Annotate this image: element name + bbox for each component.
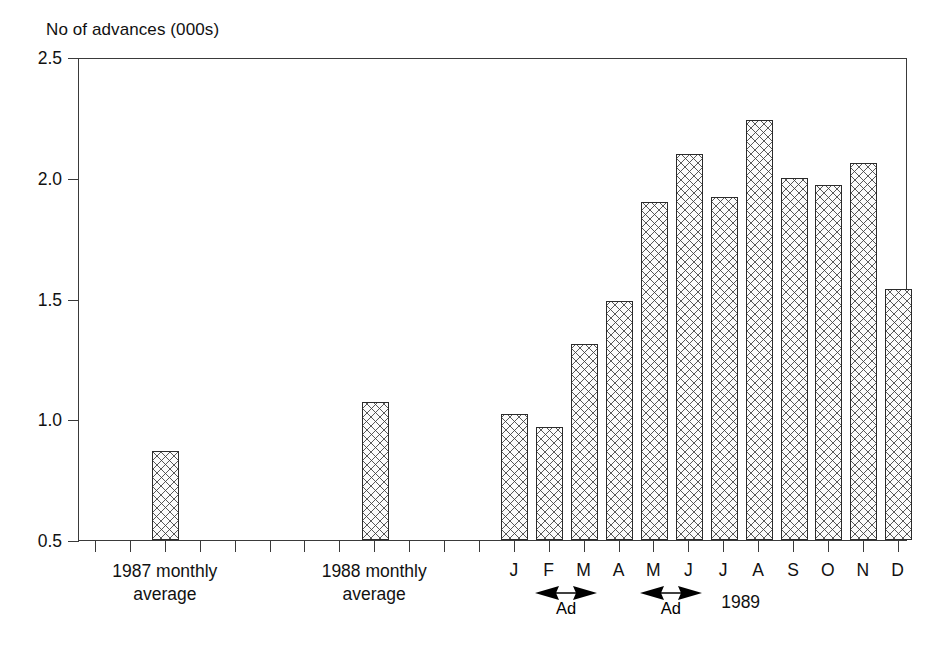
- x-tick-mark: [374, 541, 375, 552]
- x-month-label: M: [646, 560, 661, 581]
- x-tick-mark: [165, 541, 166, 552]
- x-tick-mark: [339, 541, 340, 552]
- x-tick-mark: [653, 541, 654, 552]
- x-month-label: F: [543, 560, 554, 581]
- bar: [781, 178, 808, 540]
- bar: [885, 289, 912, 540]
- x-tick-mark: [270, 541, 271, 552]
- x-tick-mark: [200, 541, 201, 552]
- x-group-label: 1987 monthlyaverage: [112, 560, 217, 606]
- x-tick-mark: [898, 541, 899, 552]
- x-month-label: O: [821, 560, 835, 581]
- bar: [746, 120, 773, 540]
- x-tick-mark: [304, 541, 305, 552]
- y-axis-labels: 0.51.01.52.02.5: [0, 0, 62, 651]
- x-tick-mark: [130, 541, 131, 552]
- x-month-label: N: [856, 560, 869, 581]
- ad-annotation-1: Ad: [533, 585, 599, 617]
- x-month-label: D: [891, 560, 904, 581]
- x-tick-mark: [514, 541, 515, 552]
- x-group-label-line1: 1987 monthly: [112, 560, 217, 583]
- plot-area: [78, 58, 907, 541]
- x-tick-mark: [723, 541, 724, 552]
- x-tick-mark: [793, 541, 794, 552]
- x-month-label: J: [509, 560, 518, 581]
- ad-annotation-2: Ad: [638, 585, 704, 617]
- x-tick-mark: [95, 541, 96, 552]
- x-tick-mark: [479, 541, 480, 552]
- y-tick-mark: [68, 541, 79, 542]
- x-month-label: S: [787, 560, 799, 581]
- ad-label: Ad: [533, 599, 599, 617]
- x-tick-mark: [444, 541, 445, 552]
- x-year-label: 1989: [721, 592, 760, 613]
- bar: [362, 402, 389, 540]
- x-month-label: A: [613, 560, 625, 581]
- x-tick-mark: [863, 541, 864, 552]
- x-tick-mark: [619, 541, 620, 552]
- x-tick-mark: [688, 541, 689, 552]
- bar: [850, 163, 877, 540]
- chart-figure: No of advances (000s) 0.51.01.52.02.5 19…: [0, 0, 937, 651]
- y-tick-label: 2.0: [38, 168, 62, 189]
- y-tick-label: 0.5: [38, 531, 62, 552]
- bar: [641, 202, 668, 540]
- x-tick-mark: [235, 541, 236, 552]
- x-month-label: A: [752, 560, 764, 581]
- x-month-label: J: [719, 560, 728, 581]
- bar: [676, 154, 703, 540]
- bar: [536, 427, 563, 541]
- bar: [606, 301, 633, 540]
- y-tick-label: 2.5: [38, 48, 62, 69]
- y-axis-title: No of advances (000s): [46, 20, 219, 40]
- bar: [711, 197, 738, 540]
- x-group-label: 1988 monthlyaverage: [322, 560, 427, 606]
- bar: [501, 414, 528, 540]
- x-group-label-line2: average: [112, 583, 217, 606]
- x-tick-mark: [409, 541, 410, 552]
- x-tick-mark: [584, 541, 585, 552]
- x-month-label: J: [684, 560, 693, 581]
- ad-label: Ad: [638, 599, 704, 617]
- x-tick-mark: [758, 541, 759, 552]
- x-tick-mark: [549, 541, 550, 552]
- x-month-label: M: [576, 560, 591, 581]
- x-group-label-line2: average: [322, 583, 427, 606]
- bar: [815, 185, 842, 540]
- x-tick-mark: [828, 541, 829, 552]
- bar: [152, 451, 179, 540]
- y-tick-label: 1.0: [38, 410, 62, 431]
- bar: [571, 344, 598, 540]
- y-tick-label: 1.5: [38, 289, 62, 310]
- x-group-label-line1: 1988 monthly: [322, 560, 427, 583]
